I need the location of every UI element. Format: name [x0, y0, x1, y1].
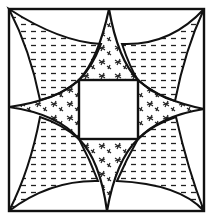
- center-square: [79, 80, 138, 139]
- quilt-block-figure: [0, 0, 212, 222]
